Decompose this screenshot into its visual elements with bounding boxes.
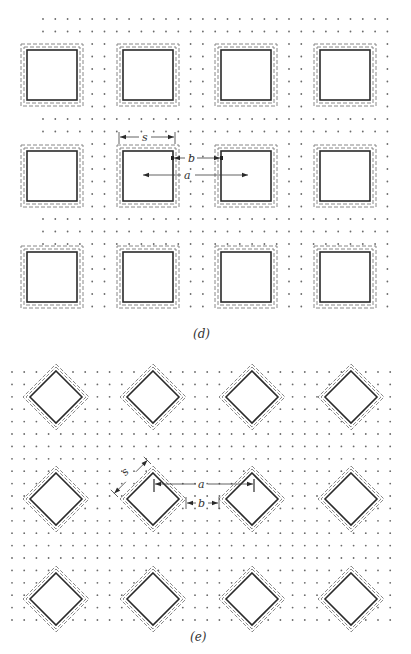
grid-dot [313,31,315,33]
grid-dot [165,231,167,233]
grid-dot [337,231,339,233]
grid-dot [300,118,302,120]
grid-dot [377,570,379,572]
grid-dot [219,421,221,423]
grid-dot [60,532,62,534]
grid-dot [165,243,167,245]
grid-dot [194,408,196,410]
grid-dot [141,118,143,120]
grid-dot [377,421,379,423]
grid-dot [328,433,330,435]
grid-dot [194,570,196,572]
grid-dot [190,68,192,70]
grid-dot [165,31,167,33]
grid-dot [362,31,364,33]
grid-dot [91,93,93,95]
grid-dot [48,433,50,435]
grid-dot [387,118,389,120]
square-cell-r1-c1 [21,44,83,106]
square-cell-r2-c3 [215,145,277,207]
grid-dot [36,371,38,373]
diamond-cell-r3-c2 [120,566,186,632]
grid-dot [79,231,81,233]
solid-square [27,151,77,201]
grid-dot [288,43,290,45]
grid-dot [337,18,339,20]
grid-dot [316,570,318,572]
grid-dot [182,532,184,534]
grid-dot [141,243,143,245]
grid-dot [219,371,221,373]
grid-dot [104,31,106,33]
grid-dot [104,256,106,258]
grid-dot [158,458,160,460]
grid-dot [84,371,86,373]
grid-dot [206,520,208,522]
grid-dot [194,582,196,584]
grid-dot [341,570,343,572]
grid-dot [177,18,179,20]
grid-dot [365,532,367,534]
grid-dot [121,446,123,448]
grid-dot [337,243,339,245]
grid-dot [206,594,208,596]
grid-dot [288,231,290,233]
grid-dot [128,243,130,245]
grid-dot [182,458,184,460]
grid-dot [116,231,118,233]
grid-dot [67,118,69,120]
grid-dot [121,495,123,497]
grid-dot [292,582,294,584]
grid-dot [121,594,123,596]
grid-dot [280,446,282,448]
solid-diamond [325,473,377,525]
grid-dot [267,557,269,559]
grid-dot [300,218,302,220]
grid-dot [374,231,376,233]
grid-dot [153,243,155,245]
grid-dot [109,408,111,410]
grid-dot [153,18,155,20]
grid-dot [292,433,294,435]
grid-dot [389,384,391,386]
grid-dot [72,557,74,559]
grid-dot [42,118,44,120]
grid-dot [264,31,266,33]
outer-dashed-border [314,246,376,308]
grid-dot [219,557,221,559]
grid-dot [145,470,147,472]
grid-dot [109,470,111,472]
solid-square [221,151,271,201]
grid-dot [341,557,343,559]
caption-d: (d) [193,327,210,341]
grid-dot [97,495,99,497]
grid-dot [182,557,184,559]
grid-dot [11,470,13,472]
grid-dot [389,619,391,621]
grid-dot [133,582,135,584]
grid-dot [182,421,184,423]
solid-diamond [30,573,82,625]
grid-dot [300,293,302,295]
grid-dot [60,545,62,547]
grid-dot [97,446,99,448]
grid-dot [353,545,355,547]
grid-dot [133,545,135,547]
grid-dot [387,306,389,308]
grid-dot [190,256,192,258]
grid-dot [362,218,364,220]
grid-dot [288,143,290,145]
outer-dashed-border [318,566,384,632]
grid-dot [165,18,167,20]
grid-dot [387,68,389,70]
grid-dot [387,293,389,295]
grid-dot [255,532,257,534]
grid-dot [288,18,290,20]
grid-dot [190,268,192,270]
grid-dot [288,68,290,70]
grid-dot [67,18,69,20]
grid-dot [387,143,389,145]
label-b: b [188,152,195,165]
grid-dot [219,570,221,572]
grid-dot [328,421,330,423]
